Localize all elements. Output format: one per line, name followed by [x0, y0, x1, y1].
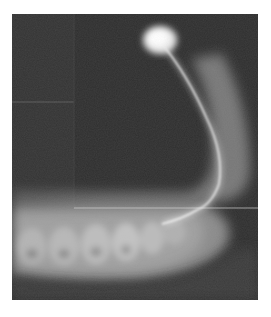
xray-image — [12, 14, 258, 300]
xray-graphic — [12, 14, 258, 300]
